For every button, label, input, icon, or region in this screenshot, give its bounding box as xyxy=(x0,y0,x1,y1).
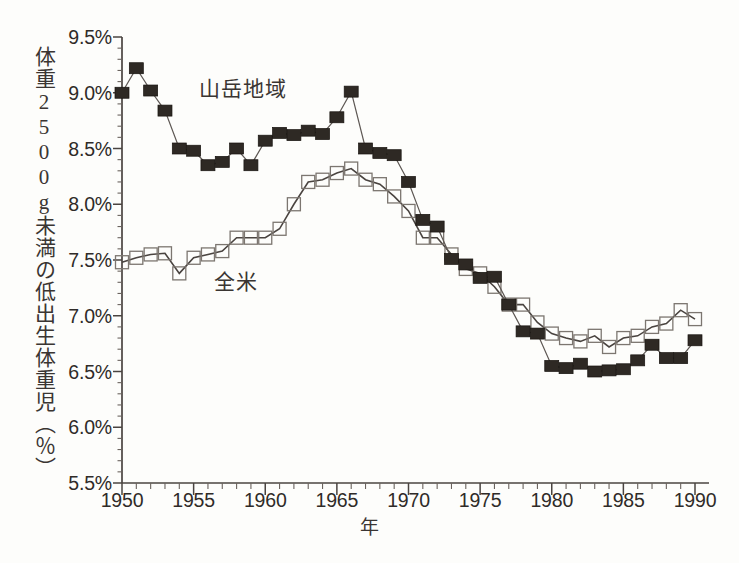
marker-mountain xyxy=(330,112,344,123)
marker-mountain xyxy=(316,129,330,140)
marker-mountain xyxy=(344,86,358,97)
chart-figure: 体重2500g未満の低出生体重児（％） 5.5%6.0%6.5%7.0%7.5%… xyxy=(0,0,739,563)
series-line-national xyxy=(122,169,695,347)
marker-mountain xyxy=(273,127,287,138)
marker-mountain xyxy=(616,364,630,375)
marker-mountain xyxy=(287,130,301,141)
x-tick-label: 1955 xyxy=(159,489,229,512)
marker-mountain xyxy=(215,156,229,167)
marker-mountain xyxy=(402,176,416,187)
marker-mountain xyxy=(473,272,487,283)
marker-mountain xyxy=(144,85,158,96)
x-tick-label: 1985 xyxy=(588,489,658,512)
x-tick-label: 1960 xyxy=(230,489,300,512)
x-tick-label: 1980 xyxy=(517,489,587,512)
marker-mountain xyxy=(559,363,573,374)
marker-mountain xyxy=(631,355,645,366)
marker-mountain xyxy=(530,328,544,339)
marker-mountain xyxy=(115,87,129,98)
marker-mountain xyxy=(573,358,587,369)
marker-mountain xyxy=(201,160,215,171)
marker-mountain xyxy=(516,326,530,337)
plot-area xyxy=(0,0,739,563)
marker-mountain xyxy=(545,360,559,371)
marker-mountain xyxy=(487,271,501,282)
x-tick-label: 1970 xyxy=(374,489,444,512)
x-tick-label: 1975 xyxy=(445,489,515,512)
marker-mountain xyxy=(444,253,458,264)
series-line-mountain xyxy=(122,68,695,371)
marker-mountain xyxy=(230,143,244,154)
x-tick-label: 1965 xyxy=(302,489,372,512)
marker-mountain xyxy=(645,339,659,350)
marker-mountain xyxy=(187,145,201,156)
marker-mountain xyxy=(430,221,444,232)
marker-mountain xyxy=(416,214,430,225)
marker-mountain xyxy=(688,335,702,346)
marker-mountain xyxy=(301,125,315,136)
marker-mountain xyxy=(602,365,616,376)
marker-mountain xyxy=(172,143,186,154)
figure-caption xyxy=(0,552,739,563)
marker-mountain xyxy=(244,160,258,171)
marker-mountain xyxy=(674,353,688,364)
marker-mountain xyxy=(158,105,172,116)
x-tick-label: 1990 xyxy=(660,489,730,512)
marker-mountain xyxy=(129,63,143,74)
marker-mountain xyxy=(387,150,401,161)
marker-mountain xyxy=(459,259,473,270)
marker-mountain xyxy=(359,143,373,154)
marker-mountain xyxy=(502,299,516,310)
marker-mountain xyxy=(588,366,602,377)
marker-mountain xyxy=(659,353,673,364)
x-tick-label: 1950 xyxy=(87,489,157,512)
marker-mountain xyxy=(258,135,272,146)
marker-mountain xyxy=(373,147,387,158)
